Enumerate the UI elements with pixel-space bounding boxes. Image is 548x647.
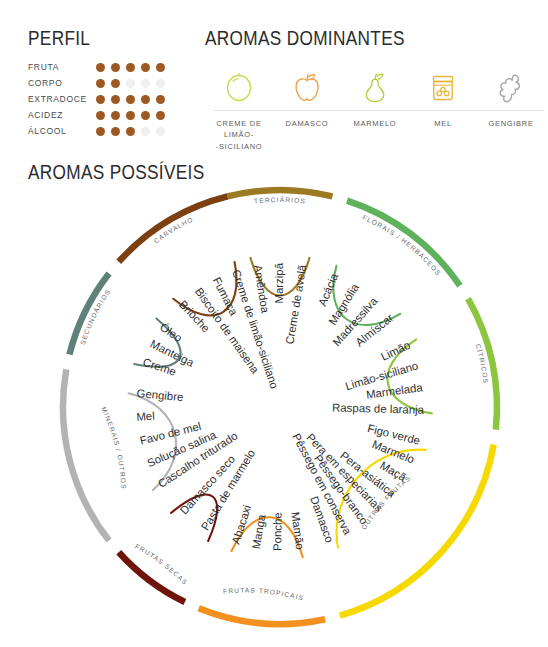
rating-dot-filled [96,111,105,120]
rating-dot-filled [111,95,120,104]
rating-dot-filled [141,111,150,120]
rating-dot-empty [156,79,165,88]
wheel-group-label: TERCIÁRIOS [254,195,307,205]
rating-dot-filled [111,127,120,136]
perfil-row-label: ÁLCOOL [28,126,90,136]
perfil-rating-dots [96,79,165,88]
dominant-aroma-item[interactable]: MARMELO [341,66,409,152]
wheel-group-label: FLORAIS / HERBÁCEOS [362,214,443,277]
perfil-row: CORPO [28,76,165,90]
rating-dot-filled [126,111,135,120]
wheel-group-arc[interactable] [228,190,333,196]
perfil-row: ÁLCOOL [28,124,165,138]
aromas-dominantes-title: AROMAS DOMINANTES [205,26,486,50]
rating-dot-filled [96,79,105,88]
rating-dot-filled [96,127,105,136]
honey-jar-icon [421,66,465,110]
wheel-aroma-label[interactable]: Raspas de laranja [332,401,425,415]
wheel-aroma-label[interactable]: Mel [136,410,155,423]
rating-dot-empty [156,127,165,136]
wheel-aroma-label[interactable]: Manga [250,513,268,550]
wheel-aroma-label[interactable]: Gengibre [136,387,184,403]
ginger-root-icon [489,66,533,110]
rating-dot-empty [141,79,150,88]
rating-dot-filled [126,127,135,136]
rating-dot-filled [96,63,105,72]
perfil-row: FRUTA [28,60,165,74]
pear-icon [353,66,397,110]
aroma-wheel-svg: TERCIÁRIOSAmêndoaMarzipãCreme de avelãFL… [8,160,548,647]
rating-dot-filled [141,95,150,104]
dominant-aroma-label: MARMELO [354,118,397,129]
aromas-dominantes-section: AROMAS DOMINANTES CREME DE LIMÃO- -SICIL… [205,26,548,152]
rating-dot-filled [111,79,120,88]
rating-dot-filled [156,111,165,120]
rating-dot-empty [126,79,135,88]
dominant-aroma-item[interactable]: GENGIBRE [477,66,545,152]
rating-dot-filled [126,63,135,72]
perfil-row-label: EXTRADOCE [28,94,90,104]
perfil-row: ACIDEZ [28,108,165,122]
wheel-aroma-label[interactable]: Mamão [289,511,306,550]
wheel-group-label: MINERAIS / OUTROS [100,406,127,490]
rating-dot-empty [141,127,150,136]
dominant-aroma-item[interactable]: MEL [409,66,477,152]
wheel-group-arc[interactable] [63,369,109,540]
wheel-aroma-label[interactable]: Marzipã [273,262,285,303]
wheel-aroma-label[interactable]: Creme de avelã [283,263,308,345]
dominant-aroma-label: GENGIBRE [488,118,533,129]
dominant-aroma-item[interactable]: DAMASCO [273,66,341,152]
perfil-title: PERFIL [28,26,140,50]
apricot-icon [285,66,329,110]
rating-dot-filled [126,95,135,104]
perfil-row-label: CORPO [28,78,90,88]
lemon-icon [217,66,261,110]
perfil-row: EXTRADOCE [28,92,165,106]
rating-dot-filled [96,95,105,104]
wheel-group-label: FRUTAS SECAS [134,542,189,586]
dominant-aroma-item[interactable]: CREME DE LIMÃO- -SICILIANO [205,66,273,152]
perfil-rating-dots [96,63,165,72]
perfil-row-label: ACIDEZ [28,110,90,120]
perfil-rating-dots [96,111,165,120]
rating-dot-filled [156,63,165,72]
dominantes-list: CREME DE LIMÃO- -SICILIANODAMASCOMARMELO… [205,66,548,152]
dominant-aroma-label: MEL [434,118,452,129]
perfil-rows: FRUTACORPOEXTRADOCEACIDEZÁLCOOL [28,60,165,138]
rating-dot-filled [111,63,120,72]
perfil-rating-dots [96,95,165,104]
perfil-rating-dots [96,127,165,136]
aroma-wheel: TERCIÁRIOSAmêndoaMarzipãCreme de avelãFL… [8,160,548,647]
dominant-aroma-label: CREME DE LIMÃO- -SICILIANO [216,118,263,152]
perfil-section: PERFIL FRUTACORPOEXTRADOCEACIDEZÁLCOOL [28,26,165,140]
perfil-row-label: FRUTA [28,62,90,72]
rating-dot-filled [111,111,120,120]
wheel-aroma-label[interactable]: Ponche [271,512,284,551]
wheel-group-label: FRUTAS TROPICAIS [223,587,305,602]
wheel-group-arc[interactable] [69,273,109,354]
dominant-aroma-label: DAMASCO [286,118,329,129]
rating-dot-filled [156,95,165,104]
wheel-group-arc[interactable] [199,608,325,624]
rating-dot-filled [141,63,150,72]
